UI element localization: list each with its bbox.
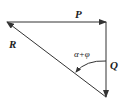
label-q: Q <box>110 59 118 71</box>
label-p: P <box>75 8 82 20</box>
label-angle: α+φ <box>74 49 90 59</box>
vector-r-line <box>7 22 106 97</box>
angle-arc <box>76 61 106 72</box>
label-r: R <box>8 38 16 50</box>
force-triangle-diagram: P R Q α+φ <box>0 0 126 104</box>
